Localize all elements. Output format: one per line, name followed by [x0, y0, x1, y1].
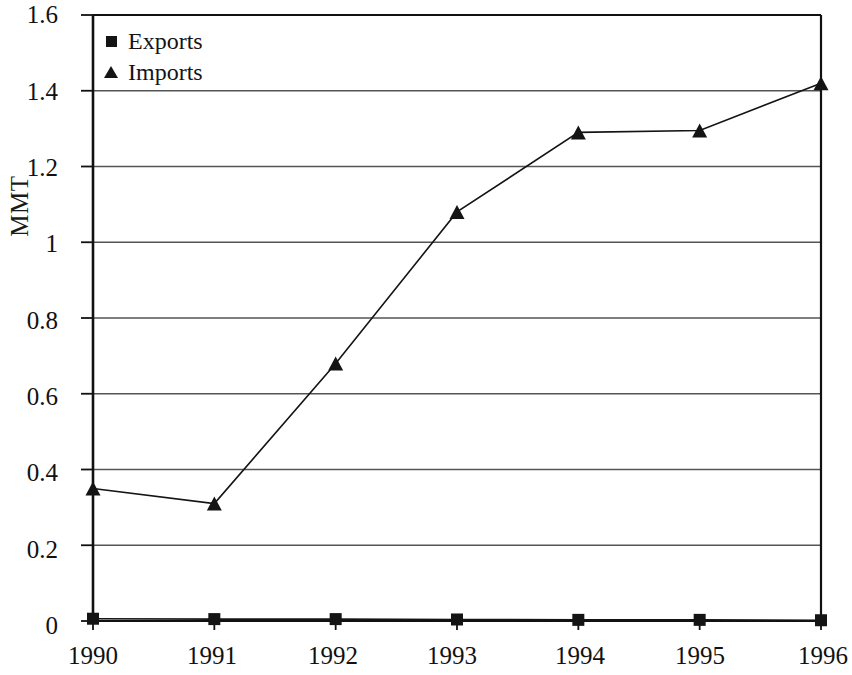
data-point-exports: [815, 614, 827, 626]
data-point-imports: [328, 356, 343, 370]
data-point-exports: [694, 614, 706, 626]
data-point-imports: [450, 205, 465, 219]
data-point-exports: [330, 613, 342, 625]
series-line-imports: [93, 83, 821, 503]
data-point-exports: [451, 613, 463, 625]
data-point-exports: [572, 614, 584, 626]
data-point-exports: [87, 613, 99, 625]
gridlines: [93, 91, 821, 546]
data-point-imports: [814, 76, 829, 90]
data-point-exports: [208, 613, 220, 625]
axis-ticks: [81, 15, 821, 630]
data-series-layer: [86, 76, 829, 626]
